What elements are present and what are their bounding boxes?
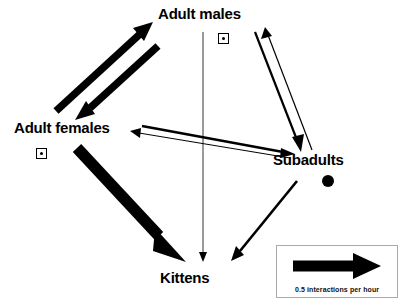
node-label-adult-females[interactable]: Adult females bbox=[14, 120, 110, 135]
self-interaction-marker-adult-females-icon bbox=[36, 148, 47, 159]
edge-subadults-to-adult-females bbox=[130, 128, 290, 158]
node-label-subadults[interactable]: Subadults bbox=[273, 152, 344, 167]
interaction-network-diagram: Adult males Adult females Subadults Kitt… bbox=[0, 0, 406, 305]
legend-caption: 0.5 interactions per hour bbox=[277, 286, 397, 293]
edge-adult-females-to-kittens bbox=[77, 148, 186, 262]
node-label-adult-males[interactable]: Adult males bbox=[158, 6, 241, 21]
legend-box: 0.5 interactions per hour bbox=[276, 245, 398, 298]
edge-adult-males-to-subadults bbox=[255, 32, 304, 152]
edge-adult-males-to-kittens bbox=[199, 32, 207, 262]
legend-scale-arrow-icon bbox=[289, 251, 387, 281]
node-label-kittens[interactable]: Kittens bbox=[160, 270, 209, 285]
self-interaction-marker-adult-males-icon bbox=[218, 33, 229, 44]
self-interaction-marker-subadults-icon bbox=[322, 175, 334, 187]
edge-subadults-to-adult-males bbox=[261, 27, 312, 150]
